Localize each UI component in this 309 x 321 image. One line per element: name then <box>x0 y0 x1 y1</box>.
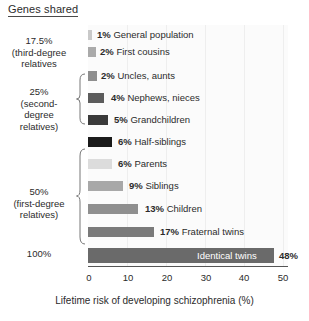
bar-row: 9% Siblings <box>0 180 309 192</box>
bar-category: Siblings <box>145 180 178 191</box>
bar-value: 13% <box>145 203 164 214</box>
bar-label: 2% Uncles, aunts <box>101 70 175 82</box>
group-line: relatives <box>0 58 78 70</box>
bar-row: 2% Uncles, aunts <box>0 70 309 82</box>
bar-value: 4% <box>111 92 125 103</box>
bar-category: Nephews, nieces <box>127 92 199 103</box>
x-tick-50: 50 <box>270 272 296 283</box>
bar-value: 6% <box>118 158 132 169</box>
bar-category: General population <box>113 29 193 40</box>
bar-label: 6% Half-siblings <box>118 136 186 148</box>
bar-label: 6% Parents <box>118 158 167 170</box>
x-axis-label: Lifetime risk of developing schizophreni… <box>0 295 309 306</box>
bar-category: Children <box>167 203 202 214</box>
bar-value: 5% <box>114 114 128 125</box>
bar-row: 2% First cousins <box>0 46 309 58</box>
bar-row: 13% Children <box>0 203 309 215</box>
bar-label: 4% Nephews, nieces <box>111 92 200 104</box>
bar-category: Grandchildren <box>130 114 190 125</box>
bar-row: 6% Parents <box>0 158 309 170</box>
bar-value: 2% <box>101 70 115 81</box>
bar-category: First cousins <box>116 46 169 57</box>
bar-value: 1% <box>97 29 111 40</box>
bar <box>88 137 112 147</box>
bar-value: 9% <box>129 180 143 191</box>
bar-row: 4% Nephews, nieces <box>0 92 309 104</box>
bar-category: Uncles, aunts <box>117 70 175 81</box>
x-tick-20: 20 <box>154 272 180 283</box>
bar-value: 6% <box>118 136 132 147</box>
x-tick-10: 10 <box>115 272 141 283</box>
bar-label: 1% General population <box>97 29 194 41</box>
bar-row: 1% General population <box>0 29 309 41</box>
bar <box>88 71 97 81</box>
genes-shared-header: Genes shared <box>8 3 78 17</box>
bar-category: Identical twins <box>197 248 257 263</box>
bar <box>88 115 108 125</box>
bar-category: Half-siblings <box>134 136 186 147</box>
bar <box>88 93 104 103</box>
bar-category: Parents <box>134 158 167 169</box>
bar-value: 17% <box>160 226 179 237</box>
bar-row: Identical twins 48% <box>0 248 309 263</box>
bar <box>88 227 154 237</box>
x-axis-line <box>88 266 288 267</box>
bar-category: Fraternal twins <box>182 226 244 237</box>
bar-label: 13% Children <box>145 203 202 215</box>
bar-label: 2% First cousins <box>100 46 170 58</box>
x-tick-40: 40 <box>231 272 257 283</box>
schizophrenia-risk-chart: Genes shared 17.5% (third-degree relativ… <box>0 0 309 321</box>
x-tick-30: 30 <box>193 272 219 283</box>
bar <box>88 181 123 191</box>
bar-row: 17% Fraternal twins <box>0 226 309 238</box>
bar <box>88 47 96 57</box>
bar <box>88 30 92 40</box>
bar-label: 9% Siblings <box>129 180 179 192</box>
bar-row: 6% Half-siblings <box>0 136 309 148</box>
bar-label: 5% Grandchildren <box>114 114 190 126</box>
bar <box>88 159 112 169</box>
x-tick-0: 0 <box>76 272 102 283</box>
bar-value: 48% <box>279 248 298 263</box>
bar-row: 5% Grandchildren <box>0 114 309 126</box>
bar-label: 17% Fraternal twins <box>160 226 244 238</box>
bar-value: 2% <box>100 46 114 57</box>
bar <box>88 204 138 214</box>
